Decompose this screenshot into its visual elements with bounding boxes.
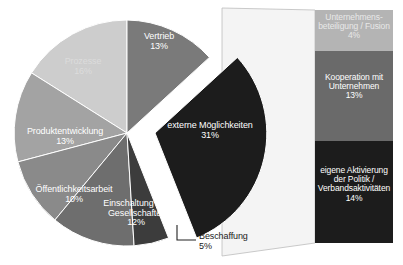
chart-canvas: Vertrieb 13% Prozesse 16% Produktentwick…	[0, 0, 403, 265]
pie-and-bar-graphic	[0, 0, 403, 265]
bar-segment-unternehmensbeteiligung-fusion[interactable]	[315, 10, 393, 51]
bar-segment-eigene-aktivierung-politik[interactable]	[315, 141, 393, 243]
bar-segment-kooperation-mit-unternehmen[interactable]	[315, 51, 393, 141]
